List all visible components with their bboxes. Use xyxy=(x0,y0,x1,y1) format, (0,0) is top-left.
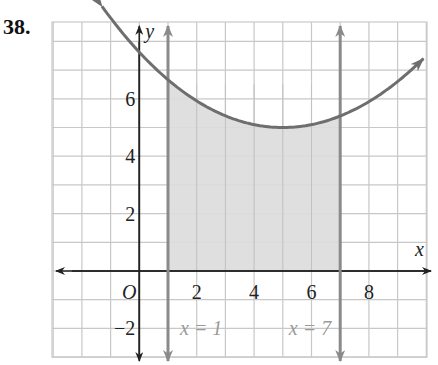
x-tick-label: 2 xyxy=(192,281,202,303)
x-axis-label: x xyxy=(414,238,424,260)
y-tick-label: 6 xyxy=(125,88,135,110)
x-tick-label: 6 xyxy=(307,281,317,303)
graph: 2468−2246Oxyx = 1x = 7 xyxy=(0,0,438,365)
line-label-x1: x = 1 xyxy=(179,317,222,339)
y-tick-label: −2 xyxy=(114,317,135,339)
y-axis-label: y xyxy=(143,20,154,43)
origin-label: O xyxy=(122,281,136,303)
x-tick-label: 4 xyxy=(249,281,259,303)
x-tick-label: 8 xyxy=(364,281,374,303)
y-tick-label: 4 xyxy=(125,145,135,167)
line-label-x7: x = 7 xyxy=(288,317,332,339)
y-tick-label: 2 xyxy=(125,203,135,225)
